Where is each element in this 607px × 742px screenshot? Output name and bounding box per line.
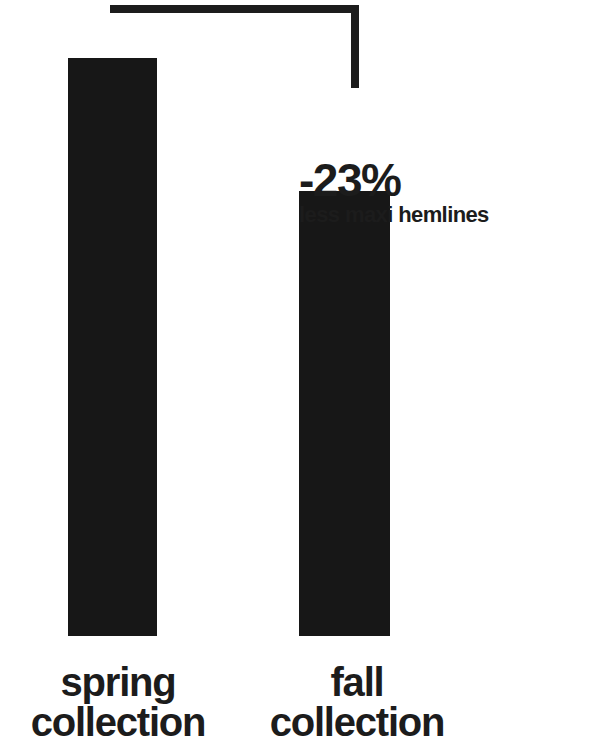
infographic-canvas: -23% less maxi hemlines spring collectio… [0, 0, 607, 742]
category-label-fall: fall collection [239, 662, 475, 742]
category-label-spring-line1: spring [0, 662, 236, 702]
connector-vertical-line [351, 5, 359, 88]
callout-note: less maxi hemlines [299, 203, 489, 227]
category-label-spring-line2: collection [0, 702, 236, 742]
bar-fall-collection [299, 191, 390, 636]
category-label-spring: spring collection [0, 662, 236, 742]
category-label-fall-line1: fall [239, 662, 475, 702]
change-callout: -23% less maxi hemlines [299, 158, 489, 227]
category-label-fall-line2: collection [239, 702, 475, 742]
bar-spring-collection [68, 58, 157, 636]
connector-horizontal-line [110, 5, 359, 13]
callout-value: -23% [299, 158, 489, 202]
